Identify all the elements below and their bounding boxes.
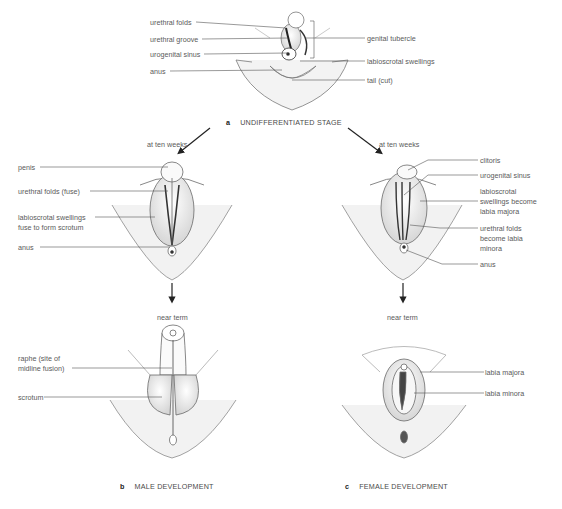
caption-female-development: cFEMALE DEVELOPMENT xyxy=(345,482,448,491)
caption-text: FEMALE DEVELOPMENT xyxy=(359,482,448,491)
male-ten-weeks-drawing xyxy=(112,162,232,280)
male-near-term-drawing xyxy=(110,325,236,458)
label-become-labia: become labia xyxy=(480,234,523,243)
label-urethral-folds-fuse: urethral folds (fuse) xyxy=(18,187,80,196)
label-fuse-to-form-scrotum: fuse to form scrotum xyxy=(18,223,84,232)
label-midline-fusion: midline fusion) xyxy=(18,364,64,373)
caption-undifferentiated: aUNDIFFERENTIATED STAGE xyxy=(226,118,342,127)
label-anus-male: anus xyxy=(18,243,34,252)
label-clitoris: clitoris xyxy=(480,156,500,165)
caption-male-development: bMALE DEVELOPMENT xyxy=(120,482,214,491)
caption-text: UNDIFFERENTIATED STAGE xyxy=(240,118,342,127)
label-labioscrotal-swellings: labioscrotal swellings xyxy=(367,57,435,66)
panel-letter-c: c xyxy=(345,482,349,491)
label-urethral-folds: urethral folds xyxy=(150,18,192,27)
panel-letter-b: b xyxy=(120,482,125,491)
female-near-term-drawing xyxy=(342,347,466,459)
label-labia-minora: labia minora xyxy=(485,389,524,398)
label-scrotum: scrotum xyxy=(18,393,44,402)
label-penis: penis xyxy=(18,163,35,172)
label-urogenital-sinus-female: urogenital sinus xyxy=(480,171,530,180)
male-stage2-title: near term xyxy=(157,313,188,322)
label-labia-majora: labia majora xyxy=(485,368,524,377)
panel-letter-a: a xyxy=(226,118,230,127)
caption-text: MALE DEVELOPMENT xyxy=(135,482,214,491)
female-stage2-title: near term xyxy=(387,313,418,322)
label-swellings-become: swellings become xyxy=(480,197,537,206)
label-labioscrotal-swellings-male: labioscrotal swellings xyxy=(18,213,86,222)
label-anus-female: anus xyxy=(480,260,496,269)
male-stage1-title: at ten weeks xyxy=(147,140,187,149)
label-tail-cut: tail (cut) xyxy=(367,76,393,85)
label-urogenital-sinus: urogenital sinus xyxy=(150,50,200,59)
female-ten-weeks-drawing xyxy=(342,165,462,280)
label-urethral-groove: urethral groove xyxy=(150,35,198,44)
label-minora: minora xyxy=(480,244,502,253)
development-illustration xyxy=(0,0,562,509)
label-labia-majora-1: labia majora xyxy=(480,207,519,216)
label-genital-tubercle: genital tubercle xyxy=(367,34,416,43)
label-anus: anus xyxy=(150,67,166,76)
label-urethral-folds-female: urethral folds xyxy=(480,224,522,233)
female-stage1-title: at ten weeks xyxy=(379,140,419,149)
label-raphe: raphe (site of xyxy=(18,354,60,363)
label-labioscrotal-female: labioscrotal xyxy=(480,187,516,196)
